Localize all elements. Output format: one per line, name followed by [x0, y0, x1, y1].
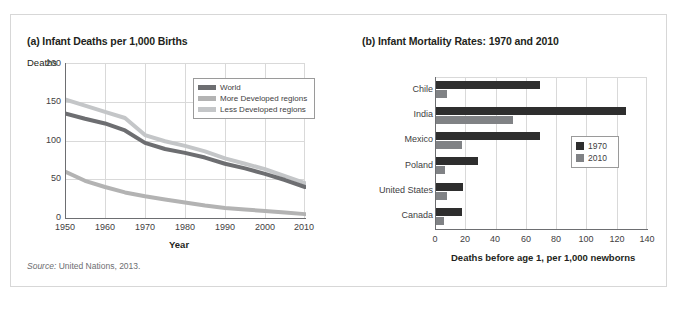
legend-swatch-more-developed-icon — [198, 96, 216, 101]
gridline-x-40 — [496, 77, 497, 229]
bar-canada-2010 — [436, 217, 444, 225]
bar-x-tick-140: 140 — [636, 234, 658, 244]
category-label-chile: Chile — [412, 84, 433, 94]
x-tick-1960: 1960 — [93, 222, 117, 232]
legend-label-world: World — [220, 83, 241, 92]
x-tick-2000: 2000 — [253, 222, 277, 232]
gridline-x-60 — [526, 77, 527, 229]
bar-x-tick-20: 20 — [454, 234, 476, 244]
bar-x-tick-60: 60 — [515, 234, 537, 244]
category-label-canada: Canada — [401, 210, 433, 220]
category-label-poland: Poland — [405, 160, 433, 170]
legend-label-less-developed: Less Developed regions — [220, 105, 306, 114]
bar-poland-1970 — [436, 157, 478, 165]
x-tick-1990: 1990 — [213, 222, 237, 232]
x-tick-1950: 1950 — [53, 222, 77, 232]
x-tick-1970: 1970 — [133, 222, 157, 232]
bar-x-tick-0: 0 — [424, 234, 446, 244]
legend-swatch-1970-icon — [576, 142, 584, 150]
source-note: Source: United Nations, 2013. — [27, 261, 140, 271]
panel-a-y-axis — [65, 63, 66, 219]
bar-united-states-1970 — [436, 183, 463, 191]
legend-item-more-developed: More Developed regions — [198, 93, 310, 104]
bar-chile-1970 — [436, 81, 540, 89]
y-tick-150: 150 — [37, 96, 61, 106]
gridline-x-80 — [556, 77, 557, 229]
panel-b-legend: 1970 2010 — [571, 136, 619, 168]
y-tick-50: 50 — [37, 173, 61, 183]
x-tick-1980: 1980 — [173, 222, 197, 232]
panel-a-x-axis — [65, 218, 306, 219]
panel-b-y-axis — [435, 77, 436, 230]
category-label-mexico: Mexico — [404, 134, 433, 144]
panel-b-category-labels: ChileIndiaMexicoPolandUnited StatesCanad… — [351, 77, 433, 229]
x-tick-2010: 2010 — [292, 222, 316, 232]
legend-item-less-developed: Less Developed regions — [198, 104, 310, 115]
source-note-label: Source: — [27, 261, 56, 271]
y-tick-100: 100 — [37, 135, 61, 145]
bar-india-2010 — [436, 116, 513, 124]
category-label-india: India — [413, 109, 433, 119]
line-more-developed-regions — [65, 172, 305, 215]
bar-x-tick-120: 120 — [606, 234, 628, 244]
bar-x-tick-80: 80 — [545, 234, 567, 244]
legend-swatch-less-developed-icon — [198, 107, 216, 112]
y-tick-200: 200 — [37, 58, 61, 68]
legend-item-world: World — [198, 82, 310, 93]
bar-x-tick-100: 100 — [575, 234, 597, 244]
figure-panel: (a) Infant Deaths per 1,000 Births Death… — [10, 14, 667, 287]
panel-a-infant-deaths: (a) Infant Deaths per 1,000 Births Death… — [11, 15, 340, 286]
legend-label-2010: 2010 — [588, 153, 607, 163]
bar-mexico-2010 — [436, 141, 462, 149]
bar-poland-2010 — [436, 166, 445, 174]
legend-swatch-world-icon — [198, 85, 216, 90]
panel-b-x-axis-title: Deaths before age 1, per 1,000 newborns — [451, 252, 635, 263]
bar-chile-2010 — [436, 90, 447, 98]
legend-item-1970: 1970 — [576, 140, 614, 152]
y-tick-0: 0 — [37, 212, 61, 222]
legend-swatch-2010-icon — [576, 154, 584, 162]
panel-b-title: (b) Infant Mortality Rates: 1970 and 201… — [362, 35, 559, 47]
panel-b-x-axis — [435, 229, 648, 230]
source-note-text: United Nations, 2013. — [56, 261, 140, 271]
legend-item-2010: 2010 — [576, 152, 614, 164]
bar-united-states-2010 — [436, 192, 447, 200]
bar-mexico-1970 — [436, 132, 540, 140]
panel-a-legend: World More Developed regions Less Develo… — [193, 78, 315, 119]
bar-india-1970 — [436, 107, 626, 115]
gridline-x-20 — [465, 77, 466, 229]
bar-canada-1970 — [436, 208, 462, 216]
panel-a-title: (a) Infant Deaths per 1,000 Births — [27, 35, 188, 47]
legend-label-more-developed: More Developed regions — [220, 94, 307, 103]
category-label-united-states: United States — [379, 185, 433, 195]
panel-a-x-axis-title: Year — [169, 239, 189, 250]
legend-label-1970: 1970 — [588, 141, 607, 151]
bar-x-tick-40: 40 — [484, 234, 506, 244]
line-world — [65, 113, 305, 187]
